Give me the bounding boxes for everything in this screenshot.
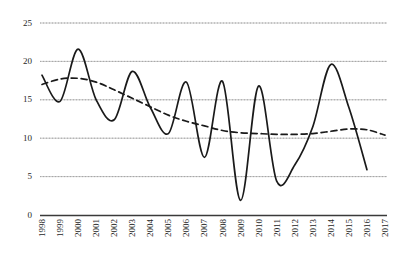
y-axis-tick-label: 10 <box>10 133 32 143</box>
x-axis-tick-label: 2016 <box>362 219 372 237</box>
x-axis-tick: 2014 <box>325 219 337 255</box>
data-line <box>42 49 367 200</box>
x-axis-tick: 2012 <box>289 219 301 255</box>
x-axis-tick: 2006 <box>180 219 192 255</box>
trend-line <box>42 78 385 135</box>
x-axis-tick-label: 2013 <box>308 219 318 237</box>
gridlines-group <box>40 23 387 177</box>
x-axis-tick: 2010 <box>253 219 265 255</box>
x-axis-tick-label: 2002 <box>109 219 119 237</box>
x-axis-tick-label: 2003 <box>127 219 137 237</box>
y-axis-tick-label: 15 <box>10 94 32 104</box>
x-axis-tick: 2000 <box>72 219 84 255</box>
x-axis-tick: 2007 <box>198 219 210 255</box>
x-axis-tick-label: 2000 <box>73 219 83 237</box>
x-axis-tick: 2002 <box>108 219 120 255</box>
y-axis-tick-label: 0 <box>10 210 32 220</box>
x-axis-tick: 2004 <box>144 219 156 255</box>
x-axis-tick: 2008 <box>217 219 229 255</box>
x-axis-tick: 1999 <box>54 219 66 255</box>
x-axis-tick-label: 2005 <box>163 219 173 237</box>
x-axis-tick: 2011 <box>271 219 283 255</box>
x-axis-tick-label: 1998 <box>37 219 47 237</box>
x-axis-tick: 2003 <box>126 219 138 255</box>
data-series-group <box>42 49 385 200</box>
x-axis-tick-label: 2008 <box>218 219 228 237</box>
x-axis-tick: 2013 <box>307 219 319 255</box>
x-axis-tick-label: 2011 <box>272 219 282 237</box>
y-axis-tick-label: 20 <box>10 56 32 66</box>
y-axis-tick-label: 5 <box>10 171 32 181</box>
x-axis-tick: 2005 <box>162 219 174 255</box>
x-axis-tick-label: 2010 <box>254 219 264 237</box>
x-axis-tick: 2017 <box>379 219 391 255</box>
x-axis-tick: 2001 <box>90 219 102 255</box>
line-chart: 0510152025 19981999200020012002200320042… <box>0 0 414 257</box>
x-axis-tick-label: 2004 <box>145 219 155 237</box>
x-axis-tick-label: 2009 <box>236 219 246 237</box>
x-axis-tick-label: 2006 <box>181 219 191 237</box>
x-axis-tick: 2009 <box>235 219 247 255</box>
x-axis-tick-label: 2007 <box>199 219 209 237</box>
x-axis-tick-label: 2015 <box>344 219 354 237</box>
x-axis-tick-label: 2014 <box>326 219 336 237</box>
x-axis-tick: 2015 <box>343 219 355 255</box>
x-axis-tick-label: 2017 <box>380 219 390 237</box>
x-axis-tick-label: 2012 <box>290 219 300 237</box>
x-axis-tick: 1998 <box>36 219 48 255</box>
x-axis-tick: 2016 <box>361 219 373 255</box>
y-axis-tick-label: 25 <box>10 18 32 28</box>
x-axis-tick-label: 2001 <box>91 219 101 237</box>
x-axis-tick-label: 1999 <box>55 219 65 237</box>
